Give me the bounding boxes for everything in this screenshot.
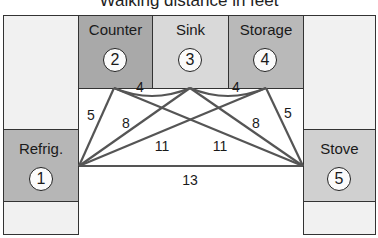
distance-label-4-5: 5: [284, 105, 292, 121]
distance-label-1-5: 13: [182, 172, 198, 188]
distance-label-2-3: 4: [136, 79, 144, 95]
distance-label-1-2: 5: [87, 107, 95, 123]
kitchen-work-triangle-diagram: Walking distance in feet Refrig. 1 Count…: [0, 0, 378, 238]
distance-label-1-4: 11: [155, 138, 170, 154]
distance-label-3-5: 8: [252, 115, 260, 131]
distance-lines: [0, 0, 378, 238]
distance-label-3-4: 4: [232, 79, 240, 95]
distance-label-2-5: 11: [213, 138, 228, 154]
distance-label-1-3: 8: [122, 115, 130, 131]
